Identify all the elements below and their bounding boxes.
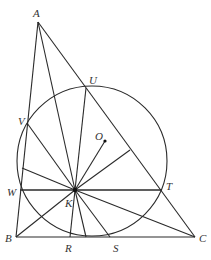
label-u: U: [89, 74, 98, 86]
label-b: B: [5, 232, 12, 244]
auxiliary-line: [75, 150, 130, 190]
label-v: V: [18, 115, 26, 127]
label-s: S: [113, 242, 119, 254]
line-segments: [16, 22, 195, 237]
label-w: W: [7, 186, 17, 198]
label-t: T: [166, 180, 173, 192]
label-a: A: [32, 7, 40, 19]
point-k-dot: [73, 188, 77, 192]
geometry-diagram: ABCKOUVWTRS: [0, 0, 211, 260]
label-k: K: [64, 197, 73, 209]
point-o-dot: [103, 139, 106, 142]
label-r: R: [64, 242, 72, 254]
label-o: O: [95, 130, 103, 142]
segment-ab: [16, 22, 38, 237]
label-c: C: [199, 232, 207, 244]
